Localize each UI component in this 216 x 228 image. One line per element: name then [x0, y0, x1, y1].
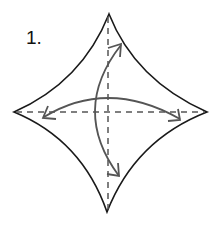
horizontal-arc-arrow: [44, 98, 180, 119]
origami-diagram: [0, 0, 216, 228]
